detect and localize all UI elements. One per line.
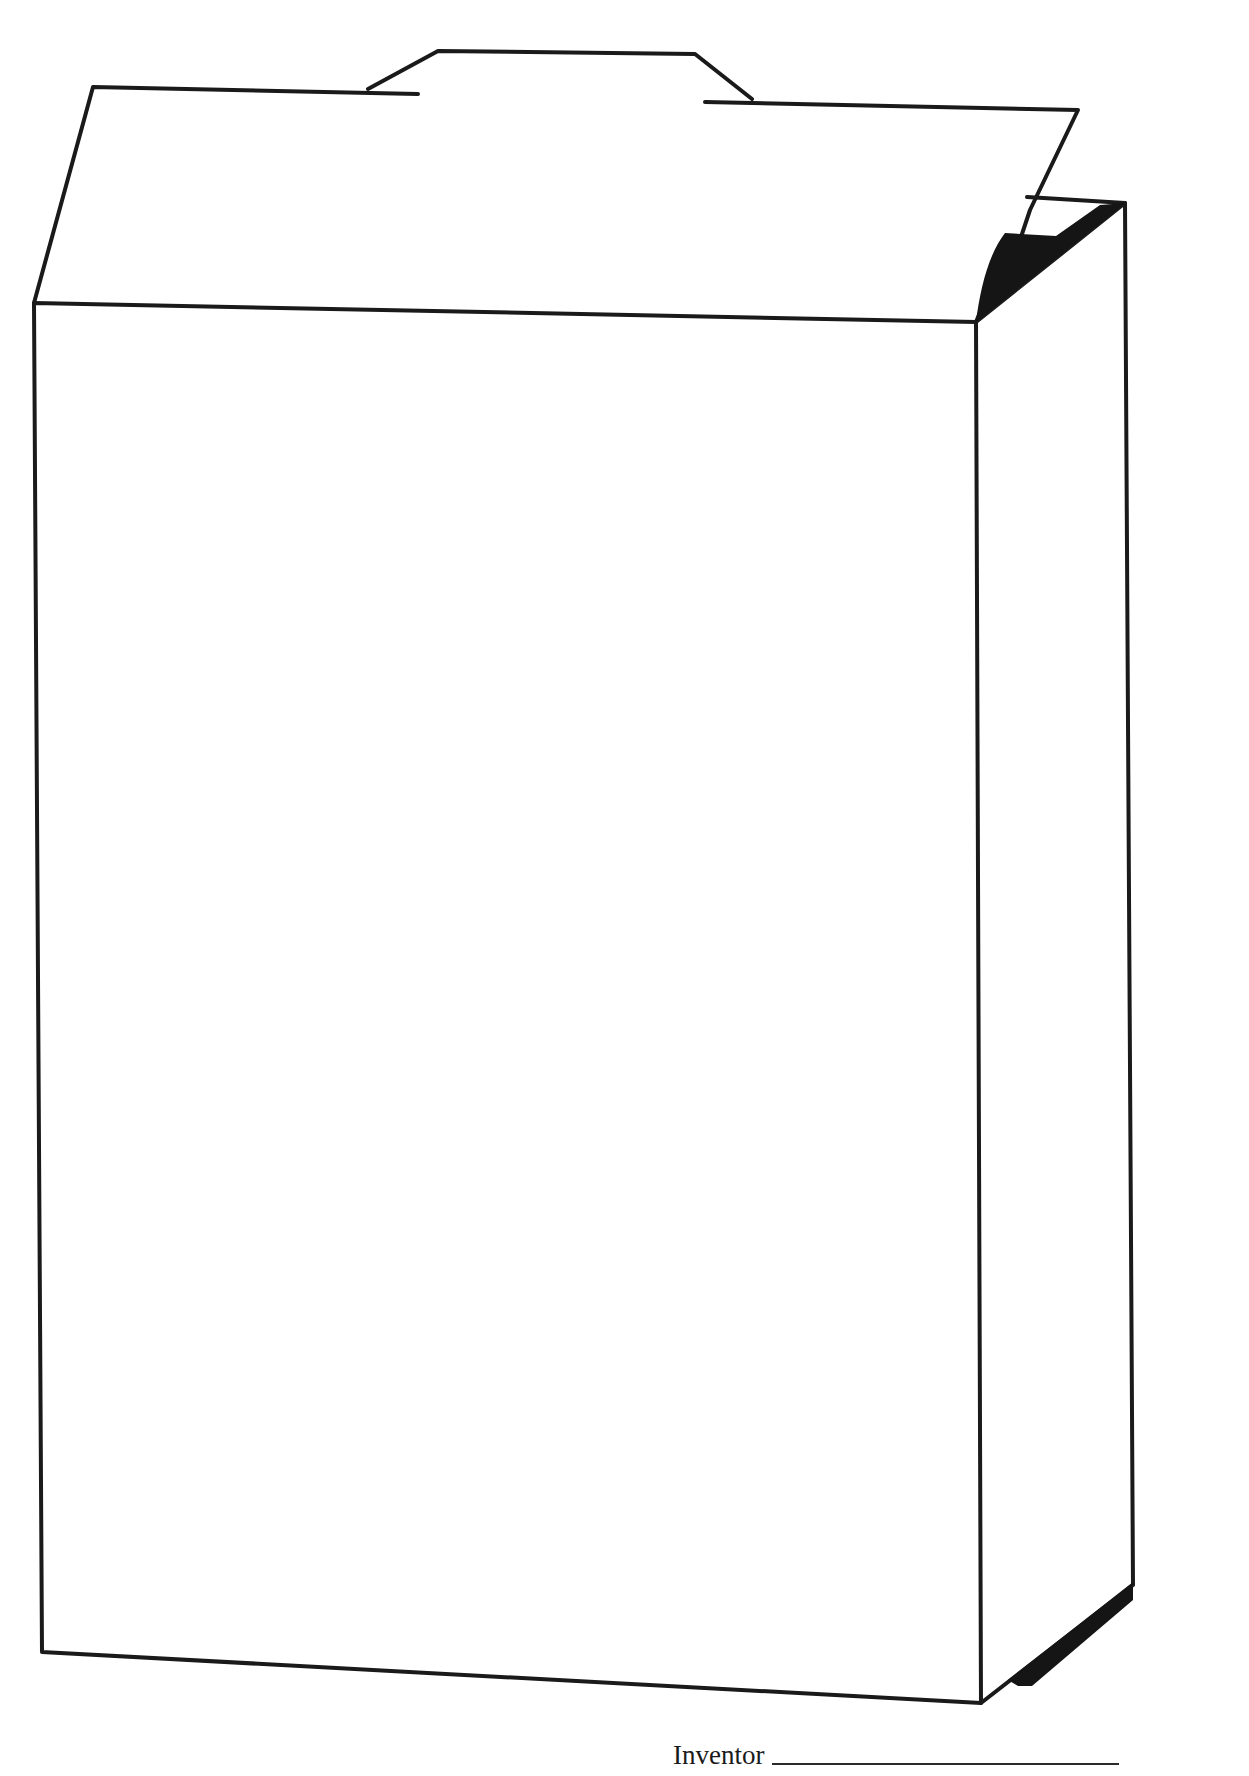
top-flap	[34, 87, 418, 303]
front-face	[34, 303, 981, 1703]
shadow-bottom	[1008, 1582, 1133, 1686]
flap-tab	[368, 51, 752, 99]
inner-back-edge	[1027, 197, 1125, 203]
inventor-label: Inventor	[673, 1742, 764, 1769]
inventor-field-row: Inventor	[673, 1742, 1119, 1769]
box-drawing	[0, 0, 1249, 1776]
right-side-face	[976, 203, 1133, 1703]
inventor-input-line[interactable]	[772, 1763, 1119, 1765]
top-flap-right	[705, 102, 1078, 322]
